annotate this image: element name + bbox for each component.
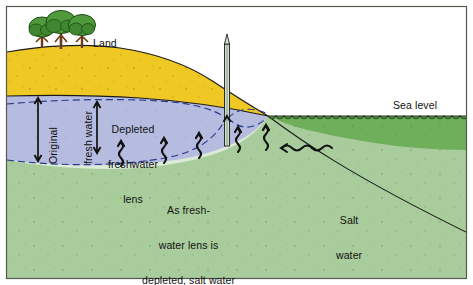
label-salt-water: Salt water [336,191,362,285]
salt-water-line-1: Salt [336,215,362,227]
well-pipe-icon [224,34,231,146]
note-line-1: As fresh- [142,205,235,217]
label-original-fresh-water: Original fresh water [24,98,44,164]
note-line-3: depleted, salt water [142,275,235,285]
note-line-2: water lens is [142,240,235,252]
diagram-root: Land Sea level Salt water Depleted fresh… [0,0,473,285]
original-line-2: fresh water [83,98,95,164]
original-line-1: Original [48,98,60,164]
label-land: Land [93,38,117,50]
label-seepage-note: As fresh- water lens is depleted, salt w… [142,181,235,285]
label-sea-level: Sea level [393,100,437,112]
salt-water-line-2: water [336,250,362,262]
